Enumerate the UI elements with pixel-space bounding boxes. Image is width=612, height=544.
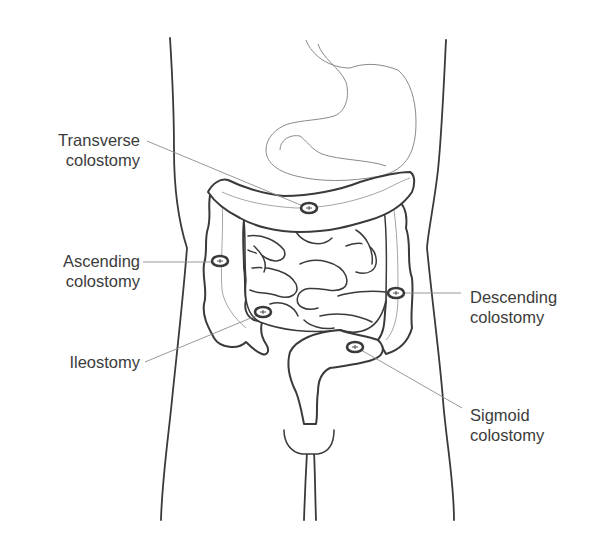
label-line: colostomy — [58, 150, 140, 170]
label-line: colostomy — [470, 425, 544, 445]
label-line: colostomy — [470, 307, 557, 327]
stoma-marker-sigmoid — [347, 342, 363, 352]
stoma-marker-ileostomy — [255, 307, 271, 317]
stomach — [266, 40, 416, 181]
stoma-marker-transverse — [301, 203, 317, 213]
label-line: Sigmoid — [470, 405, 544, 425]
label-line: Ascending — [63, 251, 140, 271]
label-ascending-colostomy: Ascending colostomy — [63, 251, 140, 291]
sigmoid-colon — [288, 330, 382, 424]
stoma-marker-ascending — [212, 256, 228, 266]
label-sigmoid-colostomy: Sigmoid colostomy — [470, 405, 544, 445]
rectum — [284, 430, 334, 454]
label-line: Transverse — [58, 130, 140, 150]
label-line: Ileostomy — [69, 352, 140, 372]
label-descending-colostomy: Descending colostomy — [470, 287, 557, 327]
label-line: colostomy — [63, 271, 140, 291]
label-ileostomy: Ileostomy — [69, 352, 140, 372]
stoma-marker-descending — [388, 288, 404, 298]
label-transverse-colostomy: Transverse colostomy — [58, 130, 140, 170]
label-line: Descending — [470, 287, 557, 307]
